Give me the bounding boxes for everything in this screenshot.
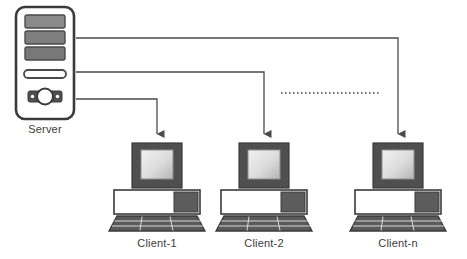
client-node-2[interactable]: Client-2 (216, 143, 312, 249)
client-1-drive-bay (174, 192, 198, 212)
network-diagram-svg: Server Client-1 (0, 0, 467, 259)
server-label: Server (28, 123, 62, 135)
client-n-keyboard-icon (350, 216, 446, 231)
diagram-canvas: Server Client-1 (0, 0, 467, 259)
client-2-drive-bay (281, 192, 305, 212)
server-drive-bay-1 (25, 15, 65, 28)
client-node-n[interactable]: Client-n (350, 143, 446, 249)
client-2-keyboard-icon (216, 216, 312, 231)
client-2-monitor-screen (248, 150, 280, 179)
connection-server-to-client-1 (76, 99, 157, 134)
connection-server-to-client-n (76, 38, 398, 134)
connection-lines (76, 38, 398, 134)
server-node[interactable]: Server (16, 7, 74, 135)
server-optical-slot-icon (24, 70, 66, 78)
server-drive-bay-3 (25, 47, 65, 60)
client-1-keyboard-icon (109, 216, 205, 231)
client-node-1[interactable]: Client-1 (109, 143, 205, 249)
client-1-label: Client-1 (137, 237, 177, 249)
client-n-monitor-screen (382, 150, 414, 179)
client-n-drive-bay (415, 192, 439, 212)
server-drive-bay-2 (25, 31, 65, 44)
connection-server-to-client-2 (76, 72, 264, 134)
client-n-label: Client-n (378, 237, 418, 249)
client-1-monitor-screen (141, 150, 173, 179)
server-power-button-icon[interactable] (28, 89, 62, 105)
client-2-label: Client-2 (244, 237, 284, 249)
